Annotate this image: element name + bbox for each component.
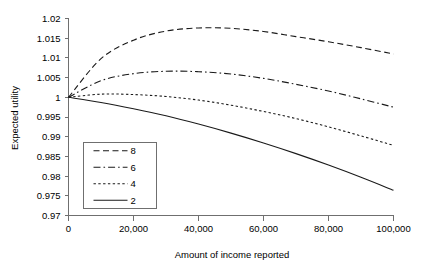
- y-tick-label: 0.99: [42, 131, 61, 142]
- y-tick-label: 0.98: [42, 171, 61, 182]
- chart-figure: 0.970.9750.980.9850.990.99511.0051.011.0…: [0, 0, 427, 272]
- y-axis-title: Expected utility: [9, 86, 20, 150]
- expected-utility-line-chart: 0.970.9750.980.9850.990.99511.0051.011.0…: [0, 0, 427, 272]
- legend-label-2: 2: [131, 195, 136, 206]
- series-line-4: [69, 94, 394, 145]
- chart-legend: 8642: [84, 143, 157, 209]
- legend-label-8: 8: [131, 145, 136, 156]
- y-tick-label: 1.02: [42, 13, 61, 24]
- x-tick-label: 100,000: [376, 223, 410, 234]
- y-tick-label: 0.995: [37, 111, 61, 122]
- y-tick-label: 1.015: [37, 33, 61, 44]
- y-tick-label: 1: [55, 92, 60, 103]
- legend-box: [84, 143, 157, 209]
- x-tick-label: 20,000: [119, 223, 148, 234]
- legend-label-6: 6: [131, 162, 136, 173]
- legend-label-4: 4: [131, 178, 136, 189]
- y-tick-label: 1.005: [37, 72, 61, 83]
- series-line-6: [69, 71, 394, 107]
- y-tick-label: 0.975: [37, 190, 61, 201]
- y-tick-label: 1.01: [42, 52, 61, 63]
- x-axis-title: Amount of income reported: [175, 249, 290, 260]
- x-tick-label: 60,000: [249, 223, 278, 234]
- y-tick-label: 0.985: [37, 151, 61, 162]
- y-axis: 0.970.9750.980.9850.990.99511.0051.011.0…: [37, 13, 69, 221]
- x-tick-label: 0: [66, 223, 71, 234]
- x-tick-label: 40,000: [184, 223, 213, 234]
- x-axis: 020,00040,00060,00080,000100,000: [66, 216, 411, 234]
- y-tick-label: 0.97: [42, 210, 61, 221]
- series-line-8: [69, 28, 394, 98]
- x-tick-label: 80,000: [314, 223, 343, 234]
